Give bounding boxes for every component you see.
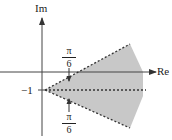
upper-angle-denominator: 6 xyxy=(67,58,72,69)
upper-angle-numerator: π xyxy=(66,45,71,56)
imaginary-axis-label: Im xyxy=(35,3,47,14)
shaded-region xyxy=(45,44,143,128)
lower-angle-label: π 6 xyxy=(62,112,76,135)
point-minus-one-label: −1 xyxy=(21,85,33,96)
lower-angle-numerator: π xyxy=(66,111,71,122)
real-axis-label: Re xyxy=(157,66,169,77)
lower-angle-denominator: 6 xyxy=(67,124,72,135)
upper-angle-label: π 6 xyxy=(62,46,76,69)
complex-plane-diagram xyxy=(0,0,172,140)
